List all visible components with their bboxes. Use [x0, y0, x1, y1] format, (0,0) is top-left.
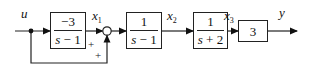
- g3-denominator: s + 2: [198, 33, 223, 46]
- g1-denominator: s − 1: [55, 33, 80, 46]
- g2-denominator: s − 1: [131, 33, 156, 46]
- signal-label-x3: x3: [224, 9, 234, 25]
- signal-label-x1: x1: [92, 9, 102, 25]
- summing-junction: [103, 27, 111, 35]
- signal-label-x2: x2: [167, 9, 177, 25]
- block-g3: 1 s + 2: [193, 12, 228, 49]
- sum-sign-lower: +: [95, 50, 101, 61]
- block-diagram: u −3 s − 1 x1 + + 1 s − 1 x2 1 s + 2 x3 …: [0, 0, 314, 70]
- g2-numerator: 1: [138, 15, 151, 28]
- g2-fraction-bar: [130, 30, 157, 31]
- output-label-y: y: [279, 6, 285, 19]
- gain-value: 3: [247, 25, 260, 38]
- block-g1: −3 s − 1: [50, 12, 86, 49]
- sum-sign-upper: +: [88, 39, 94, 50]
- g1-fraction-bar: [54, 30, 81, 31]
- block-gain: 3: [238, 20, 268, 42]
- g1-numerator: −3: [58, 15, 78, 28]
- branch-point: [29, 29, 34, 34]
- block-g2: 1 s − 1: [126, 12, 162, 49]
- g3-numerator: 1: [204, 15, 217, 28]
- input-label-u: u: [21, 7, 28, 20]
- g3-fraction-bar: [197, 30, 223, 31]
